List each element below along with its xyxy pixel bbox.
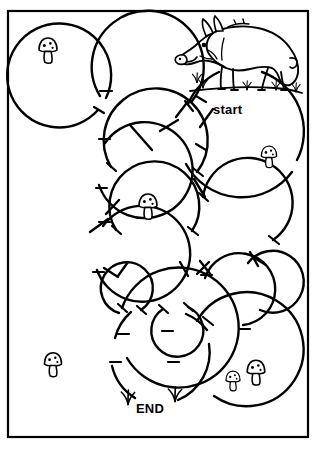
- maze-arc-c9: [122, 268, 239, 388]
- boar-ear-front: [202, 19, 213, 36]
- maze-puzzle-page: start END: [0, 0, 317, 450]
- mushroom-bottom-right-tall: [247, 360, 265, 385]
- maze-dead-end-caps: [93, 91, 279, 362]
- mushroom-decorations: [39, 38, 277, 391]
- maze-arc-c1: [7, 23, 111, 127]
- maze-arc-c11: [151, 307, 203, 357]
- boar-hooves: [218, 89, 288, 90]
- boar-snout: [175, 55, 187, 64]
- wild-boar-illustration: [175, 16, 302, 93]
- maze-arc-c15: [197, 292, 304, 406]
- end-label: END: [136, 401, 164, 416]
- maze-stub-1: [130, 125, 152, 150]
- boar-leg-front-near: [221, 67, 222, 88]
- mushroom-top-left: [39, 38, 57, 63]
- boar-eye: [202, 43, 207, 48]
- maze-walls: [7, 11, 304, 406]
- boar-ear-back: [214, 16, 223, 31]
- start-label: start: [213, 102, 242, 117]
- maze-arc-c8: [203, 158, 293, 240]
- mushroom-center: [139, 194, 157, 219]
- mushroom-bottom-left: [44, 353, 61, 377]
- maze-canvas: [0, 0, 317, 450]
- mushroom-bottom-right-small: [226, 371, 240, 391]
- boar-leg-front-far: [233, 69, 234, 89]
- boar-nostril: [179, 58, 181, 60]
- mushroom-right-upper: [261, 146, 276, 167]
